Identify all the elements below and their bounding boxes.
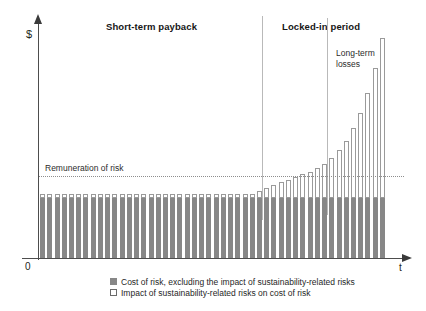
bar-column xyxy=(286,180,291,258)
legend-swatch-filled-icon xyxy=(110,278,117,285)
bar-column xyxy=(358,113,363,258)
bar-column xyxy=(134,194,139,258)
bar-segment-sustainability-impact xyxy=(177,194,182,198)
bar-segment-cost-of-risk xyxy=(235,198,240,258)
bar-column xyxy=(141,194,146,258)
bar-segment-cost-of-risk xyxy=(76,198,81,258)
x-axis-label: t xyxy=(399,262,402,273)
bar-column xyxy=(351,128,356,258)
origin-label: 0 xyxy=(25,261,31,272)
bar-column xyxy=(344,141,349,258)
bar-segment-sustainability-impact xyxy=(250,194,255,198)
bar-column xyxy=(373,68,378,258)
bar-column xyxy=(300,174,305,258)
bar-segment-cost-of-risk xyxy=(365,198,370,258)
bar-segment-cost-of-risk xyxy=(308,198,313,258)
bar-column xyxy=(98,194,103,258)
bar-segment-sustainability-impact xyxy=(83,194,88,198)
bar-column xyxy=(55,194,60,258)
bar-column xyxy=(40,194,45,258)
bar-column xyxy=(243,194,248,258)
y-axis-label: $ xyxy=(26,28,32,40)
bar-segment-cost-of-risk xyxy=(127,198,132,258)
bar-segment-sustainability-impact xyxy=(62,194,67,198)
bar-segment-cost-of-risk xyxy=(373,198,378,258)
bar-segment-cost-of-risk xyxy=(112,198,117,258)
bar-column xyxy=(308,172,313,258)
bar-column xyxy=(156,194,161,258)
bar-segment-sustainability-impact xyxy=(105,194,110,198)
bar-column xyxy=(264,188,269,258)
bar-column xyxy=(76,194,81,258)
bar-segment-sustainability-impact xyxy=(293,177,298,198)
chart-legend: Cost of risk, excluding the impact of su… xyxy=(110,276,355,298)
bar-column xyxy=(185,194,190,258)
bar-segment-sustainability-impact xyxy=(214,194,219,198)
bar-column xyxy=(91,194,96,258)
bar-segment-cost-of-risk xyxy=(380,198,385,258)
bar-segment-sustainability-impact xyxy=(365,93,370,198)
bar-segment-sustainability-impact xyxy=(300,174,305,198)
bar-segment-cost-of-risk xyxy=(199,198,204,258)
legend-item-cost-of-risk: Cost of risk, excluding the impact of su… xyxy=(110,276,355,287)
legend-swatch-outline-icon xyxy=(110,289,117,296)
legend-item-sustainability-impact: Impact of sustainability-related risks o… xyxy=(110,287,355,298)
bar-segment-cost-of-risk xyxy=(315,198,320,258)
bar-segment-cost-of-risk xyxy=(192,198,197,258)
legend-label-cost-of-risk: Cost of risk, excluding the impact of su… xyxy=(121,277,355,287)
bar-segment-cost-of-risk xyxy=(156,198,161,258)
bar-segment-sustainability-impact xyxy=(286,180,291,198)
bar-segment-sustainability-impact xyxy=(69,194,74,198)
bar-column xyxy=(257,191,262,258)
bar-column xyxy=(192,194,197,258)
bar-segment-cost-of-risk xyxy=(177,198,182,258)
bar-segment-cost-of-risk xyxy=(279,198,284,258)
bar-segment-cost-of-risk xyxy=(69,198,74,258)
bar-segment-sustainability-impact xyxy=(170,194,175,198)
bar-segment-sustainability-impact xyxy=(235,194,240,198)
bar-column xyxy=(127,194,132,258)
bar-segment-cost-of-risk xyxy=(228,198,233,258)
bar-segment-cost-of-risk xyxy=(83,198,88,258)
bar-column xyxy=(337,150,342,258)
bar-column xyxy=(120,194,125,258)
bar-segment-sustainability-impact xyxy=(351,128,356,198)
bar-column xyxy=(170,194,175,258)
bar-segment-sustainability-impact xyxy=(221,194,226,198)
long-term-losses-line-1: Long-term xyxy=(336,48,375,59)
bar-column xyxy=(322,164,327,258)
bar-segment-cost-of-risk xyxy=(271,198,276,258)
bar-segment-cost-of-risk xyxy=(141,198,146,258)
bar-segment-sustainability-impact xyxy=(199,194,204,198)
bar-segment-cost-of-risk xyxy=(47,198,52,258)
bar-segment-cost-of-risk xyxy=(149,198,154,258)
bar-segment-cost-of-risk xyxy=(62,198,67,258)
bar-segment-sustainability-impact xyxy=(257,191,262,198)
bar-segment-sustainability-impact xyxy=(373,68,378,198)
bar-segment-sustainability-impact xyxy=(264,188,269,198)
bar-column xyxy=(47,194,52,258)
bar-segment-sustainability-impact xyxy=(134,194,139,198)
remuneration-of-risk-label: Remuneration of risk xyxy=(45,163,123,173)
bar-segment-sustainability-impact xyxy=(76,194,81,198)
bar-segment-cost-of-risk xyxy=(170,198,175,258)
bar-column xyxy=(149,194,154,258)
bar-segment-cost-of-risk xyxy=(214,198,219,258)
bar-segment-sustainability-impact xyxy=(141,194,146,198)
bar-segment-cost-of-risk xyxy=(250,198,255,258)
bar-segment-cost-of-risk xyxy=(351,198,356,258)
bar-column xyxy=(199,194,204,258)
bar-segment-sustainability-impact xyxy=(315,168,320,198)
bar-segment-sustainability-impact xyxy=(127,194,132,198)
bar-column xyxy=(177,194,182,258)
bar-segment-sustainability-impact xyxy=(47,194,52,198)
bar-segment-sustainability-impact xyxy=(344,141,349,198)
bar-segment-cost-of-risk xyxy=(264,198,269,258)
bar-column xyxy=(279,182,284,258)
bar-segment-cost-of-risk xyxy=(300,198,305,258)
bar-segment-sustainability-impact xyxy=(149,194,154,198)
bar-segment-sustainability-impact xyxy=(163,194,168,198)
bar-segment-cost-of-risk xyxy=(286,198,291,258)
bar-segment-sustainability-impact xyxy=(55,194,60,198)
bar-segment-sustainability-impact xyxy=(380,38,385,198)
